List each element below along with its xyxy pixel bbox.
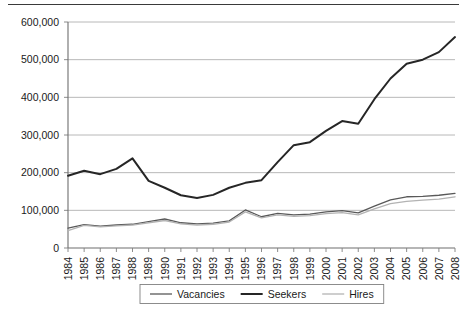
y-axis-ticks-group	[64, 22, 68, 248]
x-axis-tick-label: 1988	[126, 257, 138, 281]
x-axis-tick-label: 2005	[400, 257, 412, 281]
series-line-seekers	[68, 37, 455, 198]
y-axis-tick-label: 0	[53, 242, 59, 254]
x-axis-tick-label: 1985	[78, 257, 90, 281]
x-axis-tick-label: 1999	[304, 257, 316, 281]
x-axis-tick-label: 2006	[417, 257, 429, 281]
x-axis-tick-label: 1995	[239, 257, 251, 281]
x-axis-tick-label: 1994	[223, 257, 235, 281]
legend-label-hires: Hires	[349, 288, 374, 300]
x-axis-tick-label: 1989	[142, 257, 154, 281]
x-axis-tick-label: 1986	[94, 257, 106, 281]
legend-label-vacancies: Vacancies	[177, 288, 225, 300]
x-axis-tick-label: 2008	[449, 257, 461, 281]
x-axis-tick-label: 2007	[433, 257, 445, 281]
x-axis-tick-label: 2004	[384, 257, 396, 281]
y-axis-tick-label: 200,000	[21, 166, 59, 178]
chart-legend: VacanciesSeekersHires	[140, 285, 384, 304]
y-axis-tick-label: 300,000	[21, 129, 59, 141]
line-chart-canvas: 0100,000200,000300,000400,000500,000600,…	[0, 0, 467, 313]
y-axis-tick-label: 400,000	[21, 91, 59, 103]
x-axis-tick-label: 1993	[207, 257, 219, 281]
y-axis-tick-label: 100,000	[21, 204, 59, 216]
x-axis-tick-label: 1997	[271, 257, 283, 281]
x-axis-tick-label: 1987	[110, 257, 122, 281]
x-axis-tick-label: 1990	[159, 257, 171, 281]
legend-label-seekers: Seekers	[268, 288, 307, 300]
x-axis-labels-group: 1984198519861987198819891990199119921993…	[62, 257, 461, 281]
gridlines-group	[68, 22, 455, 248]
x-axis-tick-label: 1998	[288, 257, 300, 281]
series-line-hires	[68, 197, 455, 231]
x-axis-tick-label: 2001	[336, 257, 348, 281]
x-axis-tick-label: 1984	[62, 257, 74, 281]
x-axis-tick-label: 1992	[191, 257, 203, 281]
chart-figure: 0100,000200,000300,000400,000500,000600,…	[0, 0, 467, 313]
data-series-group	[68, 37, 455, 231]
y-axis-tick-label: 600,000	[21, 16, 59, 28]
x-axis-tick-label: 1991	[175, 257, 187, 281]
x-axis-tick-label: 2002	[352, 257, 364, 281]
x-axis-tick-label: 2000	[320, 257, 332, 281]
y-axis-labels-group: 0100,000200,000300,000400,000500,000600,…	[21, 16, 59, 254]
x-axis-ticks-group	[68, 248, 455, 252]
y-axis-tick-label: 500,000	[21, 53, 59, 65]
x-axis-tick-label: 2003	[368, 257, 380, 281]
x-axis-tick-label: 1996	[255, 257, 267, 281]
